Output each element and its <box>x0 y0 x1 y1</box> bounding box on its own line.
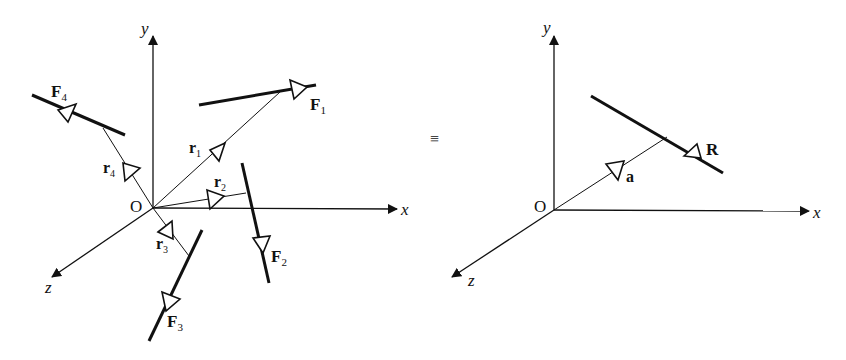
origin-label: O <box>130 197 142 216</box>
R-line <box>591 96 723 173</box>
r4-arrow-icon <box>123 163 140 181</box>
F4-line <box>32 95 125 135</box>
r2-label: r2 <box>214 173 226 193</box>
left-diagram: y x z O F1 F2 F3 F4 r1 r2 <box>32 19 409 341</box>
r4-label: r4 <box>103 159 115 179</box>
F3-arrow-icon <box>162 292 180 311</box>
a-arrow-icon <box>606 161 624 180</box>
r1-arrow-icon <box>210 143 225 161</box>
a-label: a <box>626 168 634 185</box>
right-diagram: y x z O a R <box>452 18 821 290</box>
z-axis <box>52 208 153 277</box>
x-axis <box>554 210 809 211</box>
y-axis-label: y <box>139 19 149 38</box>
z-axis-label: z <box>467 271 475 290</box>
F1-label: F1 <box>310 95 326 116</box>
y-axis-label: y <box>541 18 551 37</box>
z-axis <box>452 210 554 277</box>
F2-line <box>242 163 269 283</box>
a-line <box>554 137 667 210</box>
F3-label: F3 <box>167 312 183 333</box>
r1-label: r1 <box>189 139 201 159</box>
R-label: R <box>706 140 719 159</box>
equivalence-symbol: ≡ <box>430 130 439 147</box>
x-axis <box>153 208 397 209</box>
x-axis-label: x <box>400 200 409 219</box>
force-system-diagram: y x z O F1 F2 F3 F4 r1 r2 <box>0 0 846 360</box>
origin-label: O <box>534 197 546 216</box>
F2-label: F2 <box>271 247 287 268</box>
F4-label: F4 <box>51 82 67 103</box>
x-axis-label: x <box>812 203 821 222</box>
F1-arrow-icon <box>290 80 307 99</box>
F2-arrow-icon <box>253 236 270 253</box>
r3-label: r3 <box>156 235 168 255</box>
z-axis-label: z <box>44 278 52 297</box>
